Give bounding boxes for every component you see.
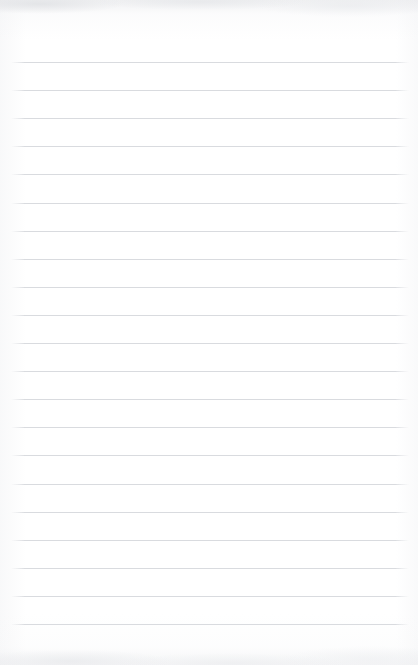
lined-paper-page [0, 0, 418, 665]
writing-area[interactable] [0, 0, 418, 665]
